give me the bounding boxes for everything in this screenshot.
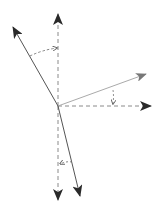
vector-right-up [58,74,146,106]
angle-upper-arc-icon [30,48,57,56]
vector-down [58,106,80,196]
vector-angle-diagram [0,0,162,212]
angle-right-arc-icon [113,90,114,104]
angle-lower-arc-icon [60,162,72,164]
vector-up-left [13,27,58,106]
